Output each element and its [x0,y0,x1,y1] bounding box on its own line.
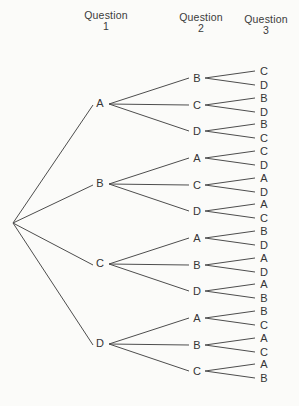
node-q3-D-B-A: A [260,332,268,344]
edge-C-D-B [205,291,255,298]
node-q2-C-A: A [193,232,201,244]
node-q3-D-A-B: B [260,305,267,317]
node-q1-A: A [96,97,104,109]
edge-A-D [109,104,189,131]
node-q3-D-B-C: C [260,346,268,358]
node-q1-B: B [96,177,103,189]
node-q1-D: D [96,337,104,349]
node-q2-B-A: A [193,152,201,164]
node-q2-D-C: C [193,365,201,377]
edge-B-C-D [205,185,255,192]
edge-A-C [109,104,189,105]
edge-C-A-D [205,238,255,245]
node-q3-C-D-B: B [260,292,267,304]
node-q3-B-C-A: A [260,172,268,184]
edge-D-B-A [205,338,255,345]
edge-root-C [13,223,93,265]
node-q1-C: C [96,257,104,269]
node-q2-A-B: B [193,72,200,84]
edge-C-A-B [205,231,255,238]
edge-C-A [109,238,189,264]
edge-B-A [109,158,189,184]
edge-root-A [13,105,93,223]
node-q3-D-A-C: C [260,319,268,331]
edge-B-C-A [205,178,255,185]
edge-A-C-D [205,105,255,112]
node-q2-D-A: A [193,312,201,324]
node-q3-C-D-A: A [260,278,268,290]
edge-D-C [109,344,189,371]
node-q3-B-C-D: D [260,186,268,198]
node-q3-B-D-A: A [260,198,268,210]
edge-A-B-C [205,71,255,78]
edge-D-B-C [205,345,255,352]
edge-A-D-C [205,131,255,138]
edge-C-D-A [205,284,255,291]
node-q3-C-A-B: B [260,225,267,237]
edge-D-B [109,344,189,345]
edge-B-D-A [205,204,255,211]
edge-A-C-B [205,98,255,105]
edge-root-D [13,223,93,345]
node-q3-B-D-C: C [260,212,268,224]
node-q3-A-C-B: B [260,92,267,104]
node-q2-B-D: D [193,205,201,217]
edge-A-B-D [205,78,255,85]
node-q3-B-A-D: D [260,159,268,171]
edge-A-D-B [205,124,255,131]
edge-B-D-C [205,211,255,218]
edge-D-C-B [205,371,255,378]
edge-B-A-D [205,158,255,165]
node-q3-C-A-D: D [260,239,268,251]
edge-B-C [109,184,189,185]
edge-B-D [109,184,189,211]
tree-diagram-page: Question 1 Question 2 Question 3 ABCDCBD… [0,0,299,406]
edge-C-D [109,264,189,291]
edge-D-A-B [205,311,255,318]
node-q3-D-C-B: B [260,372,267,384]
node-q2-C-D: D [193,285,201,297]
node-q2-B-C: C [193,179,201,191]
edge-A-B [109,78,189,104]
edge-D-A [109,318,189,344]
edge-B-A-C [205,151,255,158]
edge-D-C-A [205,364,255,371]
edge-D-A-C [205,318,255,325]
edge-root-B [13,185,93,223]
node-q3-D-C-A: A [260,358,268,370]
node-q2-C-B: B [193,259,200,271]
node-q2-D-B: B [193,339,200,351]
node-q2-A-C: C [193,99,201,111]
edge-C-B-D [205,265,255,272]
edge-C-B [109,264,189,265]
node-q3-B-A-C: C [260,145,268,157]
node-q3-A-D-B: B [260,118,267,130]
node-q3-A-C-D: D [260,106,268,118]
node-q3-A-B-C: C [260,65,268,77]
probability-tree: ABCDCBDDBCBACDCADDACCABDBADDABDABCBACCAB [0,0,299,406]
node-q2-A-D: D [193,125,201,137]
node-q3-A-B-D: D [260,79,268,91]
node-q3-A-D-C: C [260,132,268,144]
edge-C-B-A [205,258,255,265]
node-q3-C-B-D: D [260,266,268,278]
node-q3-C-B-A: A [260,252,268,264]
